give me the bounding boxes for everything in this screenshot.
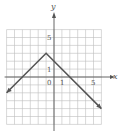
origin-label: 0 (47, 79, 51, 87)
axis-labels: y x 0 1 5 1 5 (47, 2, 118, 87)
y-tick-label-1: 1 (47, 66, 51, 74)
y-axis-label: y (50, 2, 56, 11)
x-axis-label: x (113, 72, 118, 81)
x-tick-label-5: 5 (91, 79, 95, 87)
graph-plot: y x 0 1 5 1 5 (0, 0, 119, 131)
y-axis-arrow-icon (52, 12, 56, 18)
x-tick-label-1: 1 (60, 79, 64, 87)
y-tick-label-5: 5 (47, 34, 51, 42)
